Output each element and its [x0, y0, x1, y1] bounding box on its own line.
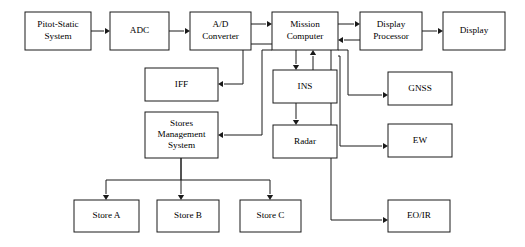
- connection-display-processor-to-mission-computer: [338, 37, 360, 43]
- node-label: Store A: [93, 210, 121, 220]
- node-label: Radar: [294, 136, 316, 146]
- connection-mission-computer-to-display-processor: [338, 21, 360, 27]
- node-label: Store C: [257, 210, 285, 220]
- node-display[interactable]: Display: [443, 12, 505, 50]
- node-store-a[interactable]: Store A: [74, 200, 139, 232]
- connection-line: [331, 50, 382, 220]
- connection-line: [338, 56, 382, 146]
- node-stores-management-system[interactable]: StoresManagementSystem: [145, 112, 218, 158]
- arrowhead-icon: [218, 81, 223, 87]
- connection-mission-computer-to-ins: [293, 50, 299, 70]
- node-adc[interactable]: ADC: [110, 12, 169, 50]
- connection-ins-to-mission-computer: [310, 50, 316, 70]
- connection-line: [181, 180, 270, 194]
- arrowhead-icon: [355, 21, 360, 27]
- node-label: IFF: [175, 79, 188, 89]
- arrowhead-icon: [383, 217, 388, 223]
- connection-line: [106, 158, 181, 194]
- node-label: Display: [460, 25, 489, 35]
- arrowhead-icon: [383, 143, 388, 149]
- connection-mission-computer-to-gnss: [338, 50, 388, 98]
- node-label: MissionComputer: [287, 20, 324, 41]
- node-store-b[interactable]: Store B: [157, 200, 219, 232]
- node-radar[interactable]: Radar: [273, 125, 337, 158]
- node-mission-computer[interactable]: MissionComputer: [272, 12, 338, 50]
- node-store-c[interactable]: Store C: [240, 200, 301, 232]
- node-label: INS: [298, 81, 313, 91]
- arrowhead-icon: [105, 28, 110, 34]
- connection-stores-to-store-a: [103, 158, 181, 200]
- block-diagram-canvas: Pitot-StaticSystemADCA/DConverterMission…: [0, 0, 525, 247]
- connection-pitot-to-adc: [91, 28, 110, 34]
- connection-mission-computer-to-stores: [218, 50, 272, 138]
- connection-stores-to-store-b: [178, 158, 184, 200]
- node-label: GNSS: [408, 83, 432, 93]
- node-ins[interactable]: INS: [273, 70, 337, 103]
- connection-line: [338, 50, 382, 95]
- node-ew[interactable]: EW: [388, 124, 452, 157]
- node-label: ADC: [130, 25, 149, 35]
- connection-stores-to-store-c: [181, 180, 273, 200]
- node-eo-ir[interactable]: EO/IR: [388, 200, 450, 232]
- node-pitot-static-system[interactable]: Pitot-StaticSystem: [25, 12, 91, 50]
- connection-adc-to-ad-converter: [169, 28, 190, 34]
- arrowhead-icon: [267, 195, 273, 200]
- node-ad-converter[interactable]: A/DConverter: [190, 12, 251, 50]
- arrowhead-icon: [218, 132, 223, 138]
- node-label: DisplayProcessor: [373, 20, 409, 41]
- diagram-svg: Pitot-StaticSystemADCA/DConverterMission…: [0, 0, 525, 247]
- node-label: Store B: [174, 210, 202, 220]
- nodes-layer: Pitot-StaticSystemADCA/DConverterMission…: [25, 12, 505, 232]
- arrowhead-icon: [293, 65, 299, 70]
- node-display-processor[interactable]: DisplayProcessor: [360, 12, 422, 50]
- node-label: EW: [413, 135, 428, 145]
- connection-line: [224, 50, 272, 135]
- arrowhead-icon: [267, 21, 272, 27]
- connections-layer: [91, 21, 443, 223]
- connection-ad-converter-to-mission-computer: [251, 21, 272, 27]
- arrowhead-icon: [185, 28, 190, 34]
- arrowhead-icon: [103, 195, 109, 200]
- arrowhead-icon: [383, 92, 388, 98]
- arrowhead-icon: [178, 195, 184, 200]
- arrowhead-icon: [438, 28, 443, 34]
- arrowhead-icon: [338, 37, 343, 43]
- connection-mission-computer-to-ew: [338, 56, 388, 149]
- node-gnss[interactable]: GNSS: [388, 72, 452, 105]
- node-label: EO/IR: [407, 210, 432, 220]
- connection-display-processor-to-display: [422, 28, 443, 34]
- node-iff[interactable]: IFF: [145, 68, 218, 101]
- arrowhead-icon: [310, 50, 316, 55]
- arrowhead-icon: [293, 120, 299, 125]
- connection-ins-to-radar: [293, 103, 299, 125]
